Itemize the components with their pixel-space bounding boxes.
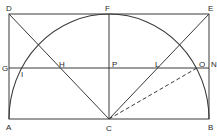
label-o: O [199, 60, 205, 69]
label-f: F [105, 4, 110, 13]
label-p: P [112, 60, 117, 69]
label-b: B [208, 123, 213, 132]
geometry-diagram: D F E G I H P L O N A C B [0, 0, 217, 138]
label-c: C [106, 124, 112, 133]
label-a: A [6, 123, 12, 132]
label-d: D [6, 4, 12, 13]
label-h: H [59, 60, 65, 69]
diagram-canvas: D F E G I H P L O N A C B [0, 0, 217, 138]
label-l: L [155, 60, 160, 69]
label-n: N [211, 60, 217, 69]
label-g: G [2, 64, 8, 73]
label-i: I [21, 70, 23, 79]
label-e: E [208, 4, 213, 13]
dashed-co [109, 68, 197, 119]
